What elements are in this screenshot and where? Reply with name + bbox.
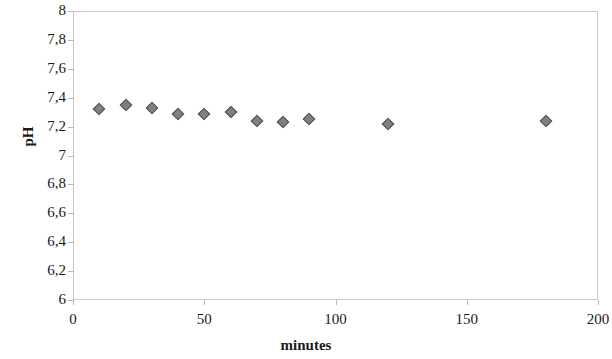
- data-point: [172, 107, 185, 120]
- data-point: [224, 106, 237, 119]
- data-point: [119, 99, 132, 112]
- data-point: [539, 114, 552, 127]
- data-point: [382, 117, 395, 130]
- data-point: [93, 103, 106, 116]
- data-point: [145, 101, 158, 114]
- data-point-layer: [0, 0, 612, 359]
- ph-vs-time-scatter-chart: pH 87,87,67,47,276,86,66,46,26 050100150…: [0, 0, 612, 359]
- data-point: [277, 116, 290, 129]
- data-point: [198, 107, 211, 120]
- data-point: [303, 113, 316, 126]
- data-point: [250, 114, 263, 127]
